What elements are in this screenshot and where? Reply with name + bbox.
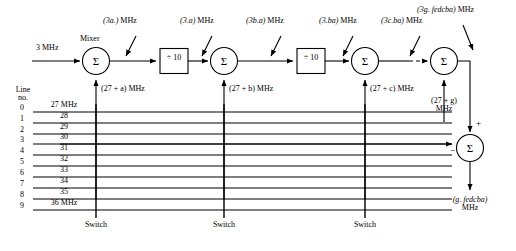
input-label: 3 MHz	[36, 44, 58, 52]
leader-sig-1	[126, 36, 136, 56]
switch-label-2[interactable]: Switch	[199, 221, 249, 229]
line-number-9: 9	[14, 202, 30, 210]
leader-sig-6	[463, 25, 473, 50]
line-number-3: 3	[14, 136, 30, 144]
synthesizer-diagram: Σ Σ Σ Σ Σ 3 MHz Mixer ÷ 10 ÷ 10 (3a.) MH…	[0, 0, 516, 251]
line-frequency-6: 33	[38, 166, 90, 174]
line-frequency-5: 32	[38, 155, 90, 163]
line-number-8: 8	[14, 191, 30, 199]
divider-1-label: ÷ 10	[160, 54, 188, 62]
sigma-glyph-4: Σ	[441, 55, 447, 67]
leader-sig-3	[271, 36, 281, 56]
switch-feed-label-b: (27 + b) MHz	[229, 85, 273, 93]
sigma-glyph-3: Σ	[362, 55, 368, 67]
switch-feed-label-g: (27 + g) MHz	[414, 97, 474, 114]
divider-2-label: ÷ 10	[297, 54, 325, 62]
line-number-2: 2	[14, 126, 30, 134]
signal-label-2: (3.a) MHz	[180, 17, 214, 25]
switch-label-1[interactable]: Switch	[71, 221, 121, 229]
leader-sig-2	[202, 36, 212, 56]
line-frequency-4: 31	[38, 144, 90, 152]
switch-label-3[interactable]: Switch	[340, 221, 390, 229]
line-no-header: Line no.	[8, 86, 38, 103]
line-number-6: 6	[14, 169, 30, 177]
switch-feed-label-c: (27 + c) MHz	[370, 85, 414, 93]
signal-label-4: (3.ba) MHz	[319, 17, 357, 25]
line-number-0: 0	[14, 104, 30, 112]
leader-sig-5	[410, 36, 420, 56]
line-frequency-8: 35	[38, 188, 90, 196]
line-number-1: 1	[14, 115, 30, 123]
line-number-7: 7	[14, 180, 30, 188]
signal-label-5: (3c.ba) MHz	[381, 17, 422, 25]
line-frequency-3: 30	[38, 133, 90, 141]
adder-minus-sign: −	[450, 146, 455, 155]
signal-label-6: (3g. fedcba) MHz	[417, 6, 474, 14]
signal-label-1: (3a.) MHz	[103, 17, 137, 25]
leader-sig-4	[343, 36, 353, 56]
adder-plus-sign: +	[476, 119, 481, 128]
line-frequency-7: 34	[38, 177, 90, 185]
sigma-glyph-1: Σ	[93, 55, 99, 67]
line-frequency-1: 28	[38, 112, 90, 120]
sigma-glyph-2: Σ	[221, 55, 227, 67]
line-number-5: 5	[14, 158, 30, 166]
output-label: (g. fedcba) MHz	[435, 196, 505, 213]
signal-label-3: (3b.a) MHz	[246, 17, 284, 25]
switch-feed-label-a: (27 + a) MHz	[101, 85, 145, 93]
line-frequency-9: 36 MHz	[38, 199, 90, 207]
line-frequency-0: 27 MHz	[38, 101, 90, 109]
line-frequency-2: 29	[38, 123, 90, 131]
sigma-glyph-5: Σ	[467, 142, 473, 154]
line-number-4: 4	[14, 147, 30, 155]
mixer-caption: Mixer	[80, 35, 100, 43]
